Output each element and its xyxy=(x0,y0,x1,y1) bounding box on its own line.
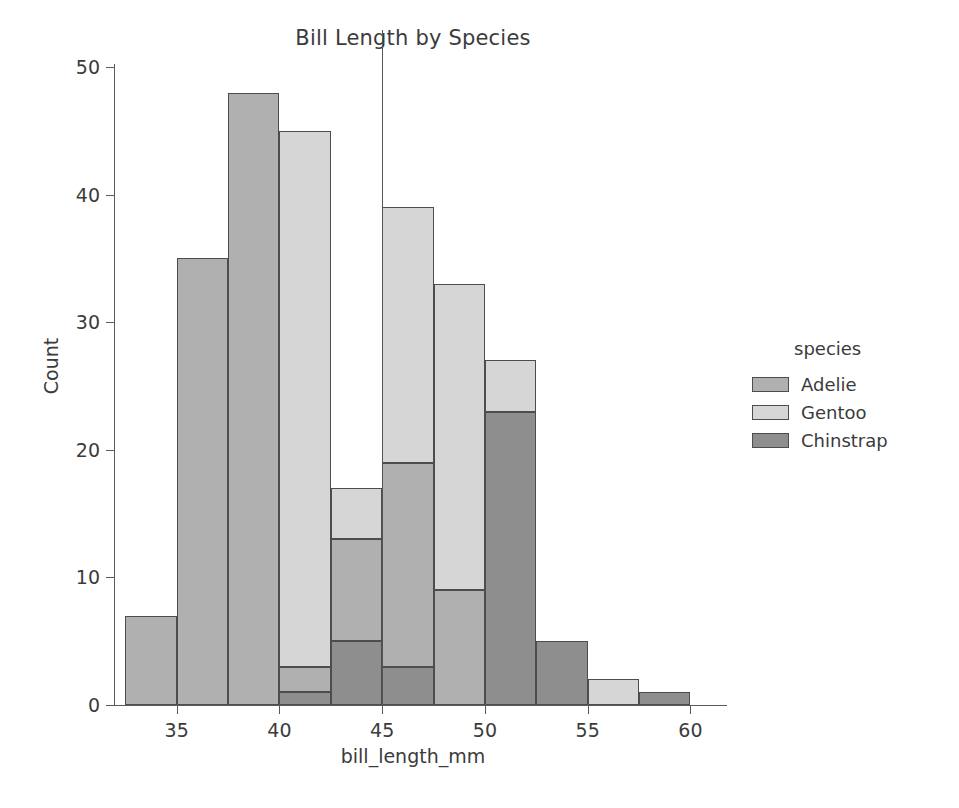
chart-figure: Bill Length by Species 01020304050354045… xyxy=(0,0,959,808)
x-axis-tick-label: 60 xyxy=(678,719,702,741)
y-axis-tick-label: 20 xyxy=(76,439,100,461)
x-axis-label: bill_length_mm xyxy=(115,745,711,767)
y-axis-tick-label: 30 xyxy=(76,311,100,333)
histogram-bar-segment xyxy=(536,641,587,705)
legend-entry-label: Adelie xyxy=(801,374,857,395)
histogram-bar-segment xyxy=(177,258,228,705)
histogram-bars xyxy=(115,67,711,705)
x-axis-tick-label: 45 xyxy=(370,719,394,741)
legend-entry-label: Chinstrap xyxy=(801,430,888,451)
histogram-bar-segment xyxy=(485,360,536,411)
x-axis-tick xyxy=(588,705,589,714)
y-axis-tick xyxy=(106,705,115,706)
x-axis-tick-label: 50 xyxy=(473,719,497,741)
histogram-bar-segment xyxy=(434,284,485,590)
x-axis-tick xyxy=(690,705,691,714)
histogram-bar-segment xyxy=(279,692,330,705)
histogram-bar-segment xyxy=(331,539,382,641)
x-axis-spine xyxy=(114,705,727,706)
legend-entry: Gentoo xyxy=(752,398,888,426)
x-axis-tick xyxy=(177,705,178,714)
y-axis-tick-label: 50 xyxy=(76,56,100,78)
legend-entry: Chinstrap xyxy=(752,426,888,454)
y-axis-tick-label: 40 xyxy=(76,184,100,206)
plot-area: 01020304050354045505560 xyxy=(115,67,711,705)
legend: species AdelieGentooChinstrap xyxy=(752,338,888,454)
histogram-bar-segment xyxy=(279,131,330,667)
histogram-bar-segment xyxy=(331,641,382,705)
histogram-bar-segment xyxy=(382,463,433,667)
histogram-bar-segment xyxy=(125,616,176,705)
legend-swatch xyxy=(752,433,789,448)
y-axis-tick xyxy=(106,67,115,68)
legend-swatch xyxy=(752,377,789,392)
legend-entry: Adelie xyxy=(752,370,888,398)
y-axis-tick xyxy=(106,322,115,323)
histogram-bar-segment xyxy=(382,667,433,705)
legend-title: species xyxy=(794,338,888,359)
x-axis-tick xyxy=(485,705,486,714)
histogram-bar-segment xyxy=(485,412,536,705)
legend-entry-label: Gentoo xyxy=(801,402,867,423)
legend-swatch xyxy=(752,405,789,420)
y-axis-label: Count xyxy=(40,306,62,426)
y-axis-spine xyxy=(114,64,115,706)
x-axis-tick-label: 40 xyxy=(267,719,291,741)
histogram-bar-segment xyxy=(382,207,433,462)
y-axis-tick xyxy=(106,577,115,578)
histogram-bar-segment xyxy=(228,93,279,705)
histogram-bar-segment xyxy=(434,590,485,705)
y-axis-tick xyxy=(106,450,115,451)
y-axis-tick-label: 0 xyxy=(88,694,100,716)
histogram-bar-segment xyxy=(331,488,382,539)
y-axis-tick xyxy=(106,195,115,196)
y-axis-tick-label: 10 xyxy=(76,566,100,588)
chart-title: Bill Length by Species xyxy=(115,26,711,50)
x-axis-tick xyxy=(279,705,280,714)
x-axis-tick-label: 55 xyxy=(576,719,600,741)
histogram-bar-segment xyxy=(588,679,639,705)
histogram-bar-segment xyxy=(639,692,690,705)
reference-line xyxy=(382,30,383,705)
x-axis-tick-label: 35 xyxy=(165,719,189,741)
histogram-bar-segment xyxy=(279,667,330,693)
legend-entries: AdelieGentooChinstrap xyxy=(752,370,888,454)
x-axis-tick xyxy=(382,705,383,714)
